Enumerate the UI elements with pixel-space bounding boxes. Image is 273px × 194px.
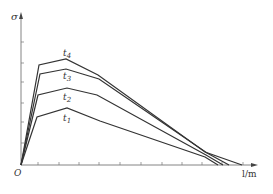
y-axis-arrow-icon: [19, 12, 23, 19]
series-line-t1: [21, 108, 218, 165]
origin-label: O: [14, 168, 22, 178]
series-label-t2: t2: [63, 92, 72, 104]
axes: [19, 12, 258, 167]
y-axis-label: σ: [11, 11, 19, 22]
series-lines: [21, 59, 242, 165]
x-axis-label: l/m: [242, 169, 257, 179]
series-label-t1: t1: [63, 113, 71, 125]
sigma-vs-length-chart: t1t2t3t4 σ l/m O: [0, 0, 273, 194]
x-axis-arrow-icon: [251, 163, 258, 167]
series-label-t4: t4: [63, 48, 71, 60]
series-line-t2: [21, 88, 223, 165]
series-label-t3: t3: [63, 71, 72, 83]
